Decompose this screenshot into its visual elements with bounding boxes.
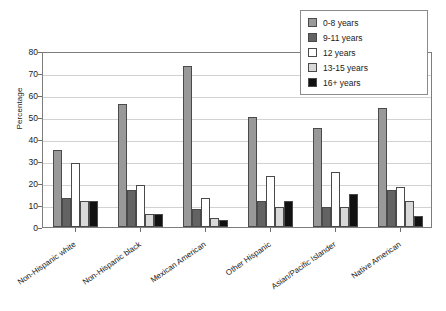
bar [154,214,163,227]
bar [284,201,293,227]
legend-swatch-icon [308,48,317,57]
bar [201,198,210,227]
bar [331,172,340,227]
bar [127,190,136,227]
bar-group [183,53,229,227]
x-tick-mark [270,228,271,232]
bar [192,209,201,227]
bar [275,207,284,227]
y-tick-label: 70 [14,69,38,79]
bar [219,220,228,227]
y-axis-tick-labels: 01020304050607080 [14,0,38,311]
legend-item[interactable]: 13-15 years [301,60,427,75]
bar [62,198,71,227]
y-tick-label: 40 [14,135,38,145]
y-tick-label: 20 [14,179,38,189]
legend-label: 9-11 years [323,33,363,43]
bar [89,201,98,227]
y-tick-label: 30 [14,157,38,167]
x-tick-mark [335,228,336,232]
legend-swatch-icon [308,63,317,72]
legend-swatch-icon [308,78,317,87]
bar [313,128,322,227]
legend-swatch-icon [308,33,317,42]
bar [266,176,275,227]
bar [340,207,349,227]
bar [183,66,192,227]
y-tick-label: 60 [14,91,38,101]
y-tick-label: 0 [14,223,38,233]
bar [145,214,154,227]
bar [71,163,80,227]
x-tick-mark [205,228,206,232]
bar [349,194,358,227]
y-tick-label: 10 [14,201,38,211]
y-tick-label: 80 [14,47,38,57]
bar-group [53,53,99,227]
bar [414,216,423,227]
legend-label: 16+ years [323,78,361,88]
legend-label: 12 years [323,48,356,58]
legend-item[interactable]: 0-8 years [301,15,427,30]
legend-item[interactable]: 16+ years [301,75,427,90]
bar-group [248,53,294,227]
legend-label: 13-15 years [323,63,368,73]
legend-swatch-icon [308,18,317,27]
bar [257,201,266,227]
bar [118,104,127,227]
legend-item[interactable]: 9-11 years [301,30,427,45]
bar [387,190,396,227]
bar [405,201,414,227]
legend-label: 0-8 years [323,18,358,28]
chart-legend: 0-8 years9-11 years12 years13-15 years16… [300,10,428,95]
bar [53,150,62,227]
bar [210,218,219,227]
bar [322,207,331,227]
bar-group [118,53,164,227]
y-tick-label: 50 [14,113,38,123]
bar [80,201,89,227]
x-tick-mark [140,228,141,232]
y-tick-mark [38,228,42,229]
x-tick-mark [400,228,401,232]
legend-item[interactable]: 12 years [301,45,427,60]
bar [396,187,405,227]
x-tick-mark [75,228,76,232]
bar-chart: Percentage 01020304050607080 Non-Hispani… [0,0,446,311]
bar [248,117,257,227]
bar [378,108,387,227]
bar [136,185,145,227]
